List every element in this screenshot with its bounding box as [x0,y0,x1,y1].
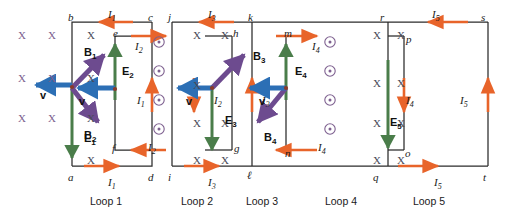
field-into-page-x-symbol: X [18,30,26,41]
current-label-I1-top: I1 [108,9,116,23]
vector-subscript: 5 [397,122,401,131]
node-label-g: g [234,143,240,154]
field-into-page-x-symbol: X [193,155,201,166]
node-label-p: p [406,34,412,45]
current-subscript: 3 [266,100,270,109]
node-label-h: h [233,28,239,39]
node-label-i: i [168,172,171,183]
current-label-I5-bottom: I5 [434,177,442,191]
loop-name-3: Loop 3 [240,196,284,207]
field-out-of-page-dot-symbol [325,66,335,76]
current-subscript: 3 [212,182,216,191]
loop-name-5: Loop 5 [407,196,451,207]
field-out-of-page-dot-symbol [154,37,164,47]
b-field-arrow-extra [115,88,150,120]
field-into-page-x-symbol: X [193,80,201,91]
loop-name-2: Loop 2 [175,196,219,207]
vector-subscript: 4 [272,137,276,146]
current-label-I3-top: I3 [208,9,216,23]
field-into-page-x-symbol: X [18,73,26,84]
junction-dot-bar2 [113,87,117,91]
vector-symbol: v [186,95,192,107]
vector-symbol: v [79,95,85,107]
field-into-page-x-symbol: X [48,30,56,41]
vector-label-E5: E5 [390,117,402,131]
field-out-of-page-dot-symbol [325,124,335,134]
vector-label-E2: E2 [122,66,134,80]
junction-dot-bar4 [284,86,288,90]
current-label-I1-bottom: I1 [108,177,116,191]
node-label-q: q [373,172,379,183]
field-into-page-x-symbol: X [373,118,381,129]
current-subscript: 4 [322,147,326,156]
vector-subscript: 3 [232,120,236,129]
loop-name-1: Loop 1 [84,196,128,207]
field-into-page-x-symbol: X [87,73,95,84]
vector-subscript: 1 [92,52,96,61]
current-subscript: 2 [218,100,222,109]
field-into-page-x-symbol: X [397,155,405,166]
current-subscript: 1 [141,100,145,109]
field-into-page-x-symbol: X [193,30,201,41]
current-label-I4-right: I4 [406,95,414,109]
field-out-of-page-dot-symbol [325,37,335,47]
field-out-of-page-dot-symbol [154,124,164,134]
field-into-page-x-symbol: X [373,78,381,89]
current-subscript: 5 [464,100,468,109]
field-into-page-x-symbol: X [48,73,56,84]
current-subscript: 3 [212,14,216,23]
current-subscript: 4 [316,46,320,55]
vector-label-B1: B1 [84,47,96,61]
field-into-page-x-symbol: X [373,30,381,41]
vector-label-v1: v [40,90,46,101]
vector-label-v3: v [186,96,192,107]
current-label-I4-top: I4 [312,41,320,55]
b-field-arrow-B3 [212,55,244,88]
vector-symbol: B [253,50,261,62]
b-spacer [115,88,150,120]
vector-label-v2: v [79,96,85,107]
node-label-d: d [148,172,154,183]
field-into-page-x-symbol: X [221,155,229,166]
field-into-page-x-symbol: X [397,78,405,89]
node-label-l: ℓ [247,170,252,181]
node-label-b: b [68,12,74,23]
current-label-I2-mid: I2 [214,95,222,109]
field-into-page-x-symbol: X [87,113,95,124]
field-into-page-x-symbol: X [397,30,405,41]
node-label-r: r [380,12,384,23]
vector-symbol: B [84,129,92,141]
vector-subscript: 2 [92,135,96,144]
circuit-diagram-svg [0,0,508,212]
vector-symbol: v [259,95,265,107]
vector-label-B2: B2 [84,130,96,144]
vector-symbol: v [40,89,46,101]
current-subscript: 1 [112,182,116,191]
current-label-I3-bottom: I3 [208,177,216,191]
node-label-e: e [113,28,118,39]
node-label-j: j [168,12,171,23]
current-subscript: 1 [112,14,116,23]
vector-label-v4: v [259,96,265,107]
vector-subscript: 3 [261,56,265,65]
current-subscript: 4 [410,100,414,109]
field-out-of-page-dot-symbol [154,95,164,105]
field-into-page-x-symbol: X [48,113,56,124]
figure-canvas: XXXXXXXXXXXXXXXXXXXXXXXXX bcjkrsehmpfgno… [0,0,508,212]
loop-name-4: Loop 4 [319,196,363,207]
node-label-m: m [284,28,292,39]
field-out-of-page-dot-symbol [154,66,164,76]
node-label-k: k [248,12,253,23]
field-into-page-x-symbol: X [87,30,95,41]
current-label-I2-bottom: I2 [148,142,156,156]
wire-loop2-inner [115,36,131,150]
current-label-I4-bottom: I4 [318,142,326,156]
field-out-of-page-dot-symbol [325,95,335,105]
vector-label-B3: B3 [253,51,265,65]
vector-label-B4: B4 [264,132,276,146]
field-into-page-x-symbol: X [373,155,381,166]
vector-symbol: B [84,46,92,58]
field-into-page-x-symbol: X [221,30,229,41]
vector-label-E4: E4 [295,66,307,80]
node-label-t: t [483,172,486,183]
